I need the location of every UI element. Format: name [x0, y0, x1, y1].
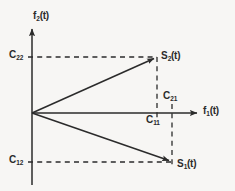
signal-space-diagram: f2(t) f1(t) C22 C12 C21 C11 S2(t) S1(t) [0, 0, 235, 191]
diagram-canvas [0, 0, 235, 191]
tick-label-c22: C22 [9, 50, 23, 60]
tick-label-c21: C21 [163, 91, 177, 101]
vector-s2 [32, 59, 154, 114]
axis-label-f1: f1(t) [203, 106, 219, 116]
vector-label-s1: S1(t) [177, 159, 196, 169]
axis-label-f2: f2(t) [33, 11, 49, 21]
tick-label-c12: C12 [9, 155, 23, 165]
tick-label-c11: C11 [146, 115, 160, 125]
vector-label-s2: S2(t) [161, 51, 180, 61]
